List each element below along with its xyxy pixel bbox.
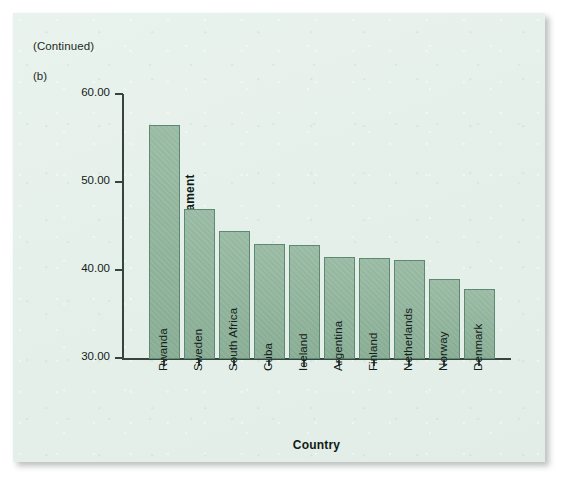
bar-chart: 30.0040.0050.0060.00 % of Women in the P… [13,13,545,462]
x-axis-tick-label: Cuba [262,343,274,371]
x-axis-tick-label: Argentina [332,321,344,371]
x-axis-tick-label: Norway [437,331,449,371]
y-axis-tick-label: 40.00 [81,262,110,274]
x-axis-tick-label: Finland [367,333,379,371]
x-axis-tick-label: South Africa [227,308,239,371]
bar [149,125,180,359]
x-axis-tick-label: Sweden [192,329,204,371]
y-axis-tick-label: 30.00 [81,350,110,362]
x-axis-tick-label: Denmark [472,324,484,371]
y-axis-tick-label: 50.00 [81,174,110,186]
bar [254,244,285,359]
x-axis-tick-label: Iceland [297,333,309,371]
x-axis-tick-label: Rwanda [157,328,169,371]
bar-series [122,88,511,359]
y-axis-tick-label: 60.00 [81,86,110,98]
x-axis-title: Country [122,438,511,452]
x-axis-tick-label: Netherlands [402,308,414,371]
figure-panel: (Continued) (b) 30.0040.0050.0060.00 % o… [13,13,545,462]
